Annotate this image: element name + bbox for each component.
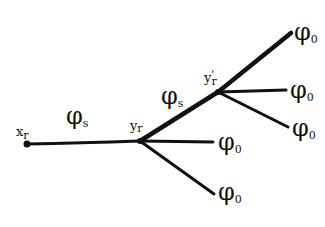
leaf-label-y-2: φ0 [218,178,242,206]
leaf-label-yprime-1: φ0 [294,18,318,46]
edge-yprime-to-leaf-1 [218,33,291,92]
edge-y-to-leaf-2 [140,141,214,194]
leaf-label-yprime-3: φ0 [292,114,316,142]
root-label: xr [16,124,29,142]
leaf-label-yprime-2: φ0 [290,76,314,104]
leaf-label-y-1: φ0 [218,128,242,156]
yprime-node [215,89,221,95]
edge-yprime-to-leaf-3 [218,92,288,127]
y-node [137,138,143,144]
edge-yprime-to-leaf-2 [218,90,286,92]
yprime-label: y'r [203,68,217,88]
y-label: yr [129,118,143,135]
edge-root-to-y [27,141,140,144]
edge-y-to-leaf-1 [140,141,213,142]
tree-diagram: xr φs yr φs y'r φ0 φ0 φ0 φ0 φ0 [0,0,325,227]
edge-label-root: φs [66,102,89,130]
edge-label-middle: φs [161,82,184,110]
